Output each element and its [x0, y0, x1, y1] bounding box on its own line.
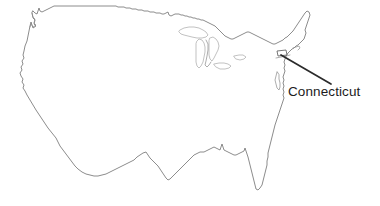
- lake-ontario-outline: [234, 55, 246, 60]
- map-canvas: [0, 0, 380, 206]
- connecticut-label: Connecticut: [288, 84, 360, 99]
- connecticut-leader-line: [281, 55, 331, 84]
- usa-landmass-outline: [20, 6, 310, 190]
- us-outline-map-figure: Connecticut: [0, 0, 380, 206]
